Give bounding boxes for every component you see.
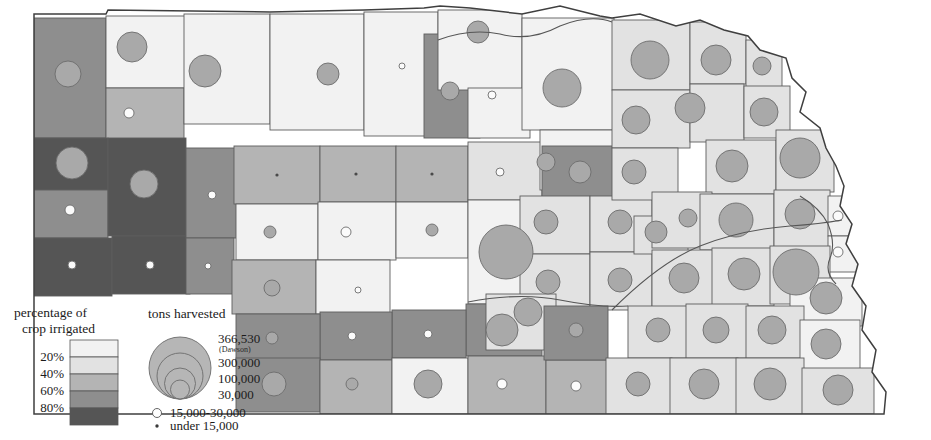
legend-dot-icon [155, 424, 158, 427]
nested-legend-label: 366,530 [218, 331, 260, 346]
county-area [468, 88, 530, 138]
county-symbol-dot [354, 172, 357, 175]
county-symbol-circle [426, 224, 438, 236]
nested-legend-circle [171, 380, 190, 399]
choropleth-legend-title-line2: crop irrigated [22, 321, 95, 336]
county-area [318, 202, 396, 260]
choropleth-swatch [70, 357, 118, 374]
county-symbol-circle [753, 57, 771, 75]
county-symbol-circle [811, 329, 841, 359]
county-symbol-circle [55, 61, 81, 87]
county-symbol-circle [622, 160, 646, 184]
county-symbol-open-circle [497, 379, 507, 389]
legend-open-circle-icon [153, 409, 162, 418]
county-symbol-circle [537, 153, 555, 171]
county-symbol-circle [823, 375, 853, 405]
county-symbol-open-circle [68, 261, 76, 269]
county-symbol-circle [262, 372, 286, 396]
choropleth-break-labels: 20%40%60%80% [40, 349, 64, 415]
county-symbol-circle [317, 63, 339, 85]
choropleth-swatch-stack [70, 340, 118, 425]
county-area [236, 204, 318, 260]
county-symbol-circle [266, 332, 278, 344]
county-symbol-circle [631, 41, 669, 79]
county-symbol-open-circle [348, 332, 356, 340]
county-symbol-circle [703, 317, 729, 343]
county-symbol-circle [754, 368, 786, 400]
choropleth-swatch [70, 340, 118, 357]
thematic-map-canvas: percentage of crop irrigated 20%40%60%80… [0, 0, 931, 440]
county-symbol-circle [346, 378, 358, 390]
county-symbol-circle [264, 280, 280, 296]
county-symbol-circle [514, 298, 542, 326]
county-symbol-circle [728, 258, 760, 290]
legend-small-class-label: under 15,000 [170, 418, 239, 433]
county-symbol-circle [264, 226, 276, 238]
county-symbol-dot [275, 173, 278, 176]
nested-legend-label: 300,000 [218, 355, 260, 370]
county-symbol-circle [56, 147, 88, 179]
choropleth-swatch [70, 391, 118, 408]
county-symbol-open-circle [65, 205, 75, 215]
county-symbol-circle [645, 221, 667, 243]
county-symbol-open-circle [424, 330, 432, 338]
county-symbol-circle [758, 316, 786, 344]
county-symbol-circle [130, 170, 158, 198]
county-symbol-open-circle [355, 287, 361, 293]
county-symbol-open-circle [833, 247, 843, 257]
nested-proportional-circles [149, 337, 211, 399]
choropleth-break-label: 60% [40, 383, 64, 398]
county-area [468, 142, 542, 200]
nested-legend-label: 30,000 [218, 387, 254, 402]
county-area [106, 88, 184, 140]
county-symbol-circle [810, 282, 842, 314]
small-class-symbols: 15,000-30,000under 15,000 [153, 405, 246, 433]
county-symbol-open-circle [399, 63, 405, 69]
county-symbol-dot [430, 172, 433, 175]
county-symbol-circle [750, 98, 778, 126]
county-symbol-circle [780, 138, 820, 178]
county-symbol-circle [569, 323, 583, 337]
county-symbol-open-circle [488, 91, 496, 99]
county-symbol-circle [701, 45, 731, 75]
county-symbol-circle [689, 369, 719, 399]
county-area [316, 260, 390, 314]
county-symbol-open-circle [571, 381, 581, 391]
symbol-legend-title: tons harvested [148, 306, 226, 321]
county-symbol-open-circle [833, 211, 843, 221]
county-symbol-circle [534, 210, 558, 234]
county-area [320, 146, 396, 202]
percentage-of-crop-irrigated-legend: percentage of crop irrigated 20%40%60%80… [14, 305, 118, 425]
choropleth-break-label: 20% [40, 349, 64, 364]
county-symbol-circle [608, 268, 632, 292]
choropleth-break-label: 40% [40, 366, 64, 381]
choropleth-legend-title-line1: percentage of [14, 305, 88, 320]
county-symbol-open-circle [146, 261, 154, 269]
county-symbol-circle [536, 270, 560, 294]
county-symbol-circle [543, 69, 581, 107]
nested-legend-label: 100,000 [218, 371, 260, 386]
county-symbol-open-circle [208, 191, 216, 199]
map-figure: percentage of crop irrigated 20%40%60%80… [0, 0, 931, 440]
county-symbol-circle [675, 93, 705, 123]
county-symbol-circle [773, 249, 819, 295]
county-symbol-circle [716, 150, 748, 182]
county-symbol-circle [414, 370, 442, 398]
county-symbol-circle [646, 318, 670, 342]
choropleth-swatch [70, 374, 118, 391]
choropleth-break-label: 80% [40, 400, 64, 415]
county-symbol-circle [117, 32, 147, 62]
county-symbol-circle [441, 82, 459, 100]
choropleth-swatch [70, 408, 118, 425]
county-symbol-circle [626, 372, 650, 396]
county-symbol-circle [486, 314, 518, 346]
county-symbol-circle [679, 209, 697, 227]
county-symbol-circle [569, 161, 591, 183]
county-symbol-circle [622, 106, 650, 134]
county-symbol-circle [479, 225, 533, 279]
nested-legend-sublabel: (Dawson) [219, 345, 251, 354]
county-symbol-open-circle [124, 108, 134, 118]
county-symbol-open-circle [341, 227, 351, 237]
county-symbol-circle [608, 210, 632, 234]
county-symbol-circle [189, 55, 221, 87]
